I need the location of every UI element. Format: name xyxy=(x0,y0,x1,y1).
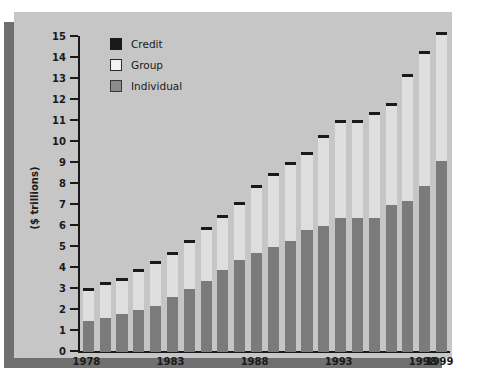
bar-segment-individual xyxy=(318,226,329,352)
bar-segment-group xyxy=(419,54,430,186)
bar-segment-group xyxy=(318,138,329,226)
bar-group xyxy=(318,37,329,352)
y-tick-mark xyxy=(70,140,78,142)
bar-segment-individual xyxy=(386,205,397,352)
bar-segment-group xyxy=(251,188,262,253)
y-tick-mark xyxy=(70,98,78,100)
y-tick-label: 7 xyxy=(59,199,66,210)
y-tick-label: 12 xyxy=(52,94,66,105)
bar-segment-individual xyxy=(116,314,127,352)
y-tick-mark xyxy=(70,266,78,268)
bar-group xyxy=(251,37,262,352)
bar-segment-individual xyxy=(436,161,447,352)
y-tick-mark xyxy=(70,245,78,247)
bar-segment-credit xyxy=(301,152,312,155)
bar-segment-group xyxy=(217,218,228,271)
y-tick-label: 15 xyxy=(52,31,66,42)
y-axis-title: ($ trillions) xyxy=(29,167,40,230)
bar-segment-credit xyxy=(100,282,111,285)
bar-group xyxy=(335,37,346,352)
y-tick-label: 2 xyxy=(59,304,66,315)
bar-segment-individual xyxy=(251,253,262,352)
bar-group xyxy=(285,37,296,352)
bar-segment-credit xyxy=(133,269,144,272)
bar-segment-group xyxy=(100,285,111,319)
bar-group xyxy=(436,37,447,352)
x-tick-label: 1988 xyxy=(241,356,269,367)
x-tick-label: 1983 xyxy=(157,356,185,367)
plot-area xyxy=(80,37,450,352)
bar-segment-group xyxy=(116,281,127,315)
bar-segment-individual xyxy=(369,218,380,352)
bar-group xyxy=(301,37,312,352)
bar-segment-individual xyxy=(167,297,178,352)
bar-segment-group xyxy=(150,264,161,306)
bar-group xyxy=(150,37,161,352)
y-tick-label: 5 xyxy=(59,241,66,252)
bar-segment-group xyxy=(268,176,279,247)
y-tick-mark xyxy=(70,161,78,163)
bar-segment-credit xyxy=(386,103,397,106)
bar-segment-individual xyxy=(201,281,212,352)
y-tick-label: 9 xyxy=(59,157,66,168)
bar-segment-credit xyxy=(201,227,212,230)
y-tick-label: 3 xyxy=(59,283,66,294)
bar-segment-individual xyxy=(184,289,195,352)
bar-segment-credit xyxy=(285,162,296,165)
y-tick-mark xyxy=(70,287,78,289)
bar-segment-group xyxy=(369,115,380,218)
bar-segment-individual xyxy=(268,247,279,352)
bar-group xyxy=(386,37,397,352)
y-tick-label: 11 xyxy=(52,115,66,126)
bar-segment-group xyxy=(234,205,245,260)
bar-segment-individual xyxy=(285,241,296,352)
y-tick-mark xyxy=(70,350,78,352)
y-tick-mark xyxy=(70,308,78,310)
x-axis-labels: 197819831988199319981999 xyxy=(78,356,450,374)
y-tick-mark xyxy=(70,56,78,58)
bar-segment-credit xyxy=(116,278,127,281)
y-tick-label: 13 xyxy=(52,73,66,84)
bar-segment-individual xyxy=(83,321,94,353)
chart-figure: Credit Group Individual ($ trillions) 01… xyxy=(0,0,490,382)
bar-group xyxy=(83,37,94,352)
bar-group xyxy=(419,37,430,352)
bar-segment-credit xyxy=(369,112,380,115)
bar-group xyxy=(167,37,178,352)
bar-segment-group xyxy=(201,230,212,280)
bar-segment-individual xyxy=(133,310,144,352)
y-tick-mark xyxy=(70,35,78,37)
bar-segment-group xyxy=(335,123,346,218)
bar-segment-group xyxy=(436,35,447,161)
bar-segment-individual xyxy=(419,186,430,352)
bar-group xyxy=(184,37,195,352)
x-tick-label: 1993 xyxy=(325,356,353,367)
y-axis-ticks: 0123456789101112131415 xyxy=(78,36,79,353)
bar-segment-credit xyxy=(184,240,195,243)
bar-segment-group xyxy=(352,123,363,218)
bar-group xyxy=(352,37,363,352)
bar-segment-individual xyxy=(150,306,161,352)
bar-segment-credit xyxy=(217,215,228,218)
bar-segment-group xyxy=(301,155,312,231)
y-tick-mark xyxy=(70,119,78,121)
y-tick-label: 4 xyxy=(59,262,66,273)
bar-segment-credit xyxy=(352,120,363,123)
y-tick-label: 1 xyxy=(59,325,66,336)
bar-segment-group xyxy=(133,272,144,310)
x-tick-label: 1978 xyxy=(72,356,100,367)
chart-panel: Credit Group Individual ($ trillions) 01… xyxy=(14,12,452,358)
y-tick-mark xyxy=(70,182,78,184)
bar-segment-credit xyxy=(402,74,413,77)
bar-segment-group xyxy=(167,255,178,297)
bar-segment-individual xyxy=(335,218,346,352)
bar-group xyxy=(234,37,245,352)
y-tick-label: 10 xyxy=(52,136,66,147)
bar-segment-group xyxy=(285,165,296,241)
bar-segment-group xyxy=(402,77,413,201)
x-tick-label: 1999 xyxy=(426,356,454,367)
bar-segment-credit xyxy=(83,288,94,291)
bar-segment-individual xyxy=(234,260,245,352)
bar-segment-credit xyxy=(419,51,430,54)
bar-segment-credit xyxy=(436,32,447,35)
